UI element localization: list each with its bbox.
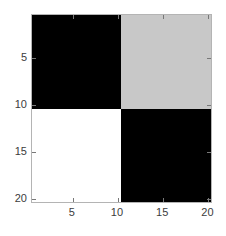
x-tick-top-5 xyxy=(73,15,74,19)
heatmap-quadrant-bottom-right xyxy=(121,109,211,202)
x-tick-bottom-10 xyxy=(118,198,119,202)
y-tick-label-15: 15 xyxy=(15,146,27,157)
heatmap-grid xyxy=(32,15,211,202)
heatmap-quadrant-top-left xyxy=(32,15,121,109)
plot-axes xyxy=(31,14,212,203)
x-tick-bottom-15 xyxy=(163,198,164,202)
figure-canvas: 5101520 5101520 xyxy=(0,0,226,236)
heatmap-quadrant-bottom-left xyxy=(32,109,121,202)
y-tick-label-5: 5 xyxy=(21,51,27,62)
y-tick-right-5 xyxy=(207,58,211,59)
y-tick-right-20 xyxy=(207,199,211,200)
y-tick-left-15 xyxy=(32,152,36,153)
y-tick-left-10 xyxy=(32,105,36,106)
y-tick-left-20 xyxy=(32,199,36,200)
x-tick-label-15: 15 xyxy=(156,207,168,218)
x-tick-label-10: 10 xyxy=(111,207,123,218)
x-tick-top-20 xyxy=(208,15,209,19)
y-tick-right-10 xyxy=(207,105,211,106)
y-tick-right-15 xyxy=(207,152,211,153)
y-tick-left-5 xyxy=(32,58,36,59)
x-tick-bottom-5 xyxy=(73,198,74,202)
heatmap-quadrant-top-right xyxy=(121,15,211,109)
x-tick-label-20: 20 xyxy=(201,207,213,218)
x-tick-label-5: 5 xyxy=(69,207,75,218)
x-tick-top-15 xyxy=(163,15,164,19)
y-tick-label-20: 20 xyxy=(15,193,27,204)
x-tick-top-10 xyxy=(118,15,119,19)
y-tick-label-10: 10 xyxy=(15,98,27,109)
